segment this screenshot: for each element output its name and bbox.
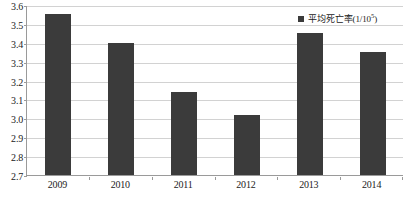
legend-label-main: 平均死亡率(1/10 — [308, 14, 371, 24]
bar-slot — [278, 6, 341, 175]
bar — [297, 33, 323, 175]
bar-chart: 3.63.53.43.33.23.13.02.92.82.7 200920102… — [0, 0, 403, 206]
y-tick-label: 2.7 — [11, 171, 23, 182]
x-tick-mark — [340, 177, 341, 180]
x-tick-mark — [277, 177, 278, 180]
bar — [108, 43, 134, 175]
x-tick-label: 2012 — [236, 179, 255, 190]
legend-label: 平均死亡率(1/105) — [308, 12, 377, 25]
x-axis: 200920102011201220132014 — [26, 177, 403, 197]
x-tick-label: 2013 — [299, 179, 318, 190]
y-tick-label: 2.8 — [11, 152, 23, 163]
y-tick-label: 3.1 — [11, 95, 23, 106]
x-tick-mark — [89, 177, 90, 180]
x-tick-mark — [215, 177, 216, 180]
y-axis: 3.63.53.43.33.23.13.02.92.82.7 — [0, 0, 26, 176]
bar-slot — [90, 6, 153, 175]
y-tick-label: 3.3 — [11, 57, 23, 68]
y-tick-label: 3.6 — [11, 1, 23, 12]
bar-slot — [153, 6, 216, 175]
bar — [171, 92, 197, 175]
bar — [360, 52, 386, 175]
bar-slot — [27, 6, 90, 175]
x-tick-label: 2010 — [111, 179, 130, 190]
y-tick-label: 3.0 — [11, 114, 23, 125]
y-tick-label: 3.4 — [11, 38, 23, 49]
plot-area — [26, 6, 403, 176]
x-tick-label: 2011 — [174, 179, 193, 190]
bars-group — [27, 6, 403, 175]
bar — [234, 115, 260, 175]
x-tick-label: 2014 — [362, 179, 381, 190]
x-tick-label: 2009 — [48, 179, 67, 190]
x-tick-mark — [152, 177, 153, 180]
bar-slot — [216, 6, 279, 175]
legend-color-swatch — [298, 16, 304, 22]
bar-slot — [341, 6, 403, 175]
y-tick-label: 3.2 — [11, 76, 23, 87]
legend-label-tail: ) — [374, 14, 377, 24]
y-tick-label: 2.9 — [11, 133, 23, 144]
y-tick-label: 3.5 — [11, 19, 23, 30]
chart-legend: 平均死亡率(1/105) — [298, 12, 377, 25]
bar — [45, 14, 71, 175]
